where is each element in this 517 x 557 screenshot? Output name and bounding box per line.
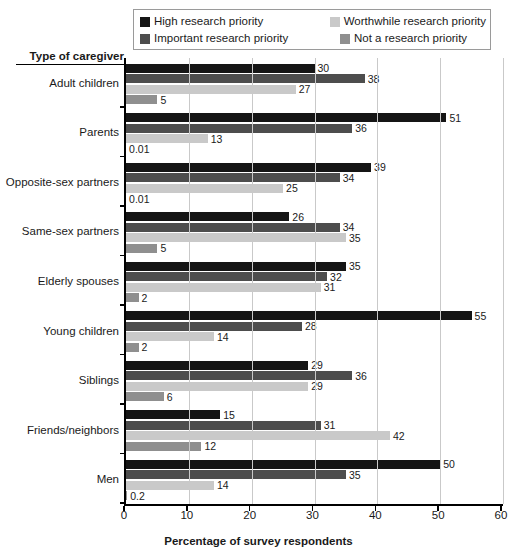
legend-row-1: High research priority Worthwhile resear… — [140, 13, 486, 30]
x-tick-label: 10 — [180, 509, 193, 521]
bar-value-label: 29 — [311, 360, 323, 371]
bar-value-label: 12 — [204, 441, 216, 452]
bar-value-label: 0.01 — [129, 144, 149, 155]
category-label: Opposite-sex partners — [1, 176, 119, 188]
x-axis-ticks: 0102030405060 — [124, 506, 501, 522]
legend-item-high: High research priority — [140, 16, 330, 28]
bar[interactable]: 30 — [126, 64, 315, 73]
legend-item-important: Important research priority — [140, 33, 340, 45]
bar-value-label: 34 — [343, 172, 355, 183]
bar-value-label: 2 — [142, 292, 148, 303]
bar-value-label: 26 — [292, 211, 304, 222]
bar[interactable]: 29 — [126, 361, 308, 370]
bar[interactable]: 26 — [126, 212, 289, 221]
bar[interactable]: 14 — [126, 481, 214, 490]
bar[interactable]: 31 — [126, 283, 321, 292]
bar[interactable]: 51 — [126, 113, 446, 122]
x-tick-label: 0 — [121, 509, 127, 521]
gridline — [503, 58, 504, 504]
bar-value-label: 35 — [349, 470, 361, 481]
legend-swatch-worthwhile-icon — [330, 17, 340, 27]
bar[interactable]: 50 — [126, 460, 440, 469]
legend-swatch-not-icon — [340, 34, 350, 44]
bar-value-label: 29 — [311, 381, 323, 392]
bar-value-label: 31 — [324, 420, 336, 431]
bar[interactable]: 34 — [126, 173, 340, 182]
bar[interactable]: 35 — [126, 262, 346, 271]
bar-value-label: 13 — [211, 133, 223, 144]
category-label: Parents — [1, 126, 119, 138]
legend-label-worthwhile: Worthwhile research priority — [344, 16, 486, 28]
bar[interactable]: 31 — [126, 421, 321, 430]
x-tick-label: 30 — [306, 509, 319, 521]
bar[interactable]: 36 — [126, 371, 352, 380]
category-label: Men — [1, 473, 119, 485]
bar[interactable]: 36 — [126, 124, 352, 133]
gridline — [377, 58, 378, 504]
x-axis-title: Percentage of survey respondents — [0, 535, 517, 547]
y-tick-mark — [120, 502, 126, 504]
bar[interactable]: 12 — [126, 442, 201, 451]
bar[interactable]: 14 — [126, 332, 214, 341]
bar[interactable]: 5 — [126, 95, 157, 104]
bar[interactable]: 2 — [126, 343, 139, 352]
legend-row-2: Important research priority Not a resear… — [140, 30, 486, 47]
legend-item-worthwhile: Worthwhile research priority — [330, 16, 486, 28]
bar-value-label: 42 — [393, 431, 405, 442]
bar-value-label: 35 — [349, 232, 361, 243]
category-label: Elderly spouses — [1, 275, 119, 287]
bar-value-label: 5 — [160, 94, 166, 105]
legend-label-not: Not a research priority — [354, 33, 467, 45]
bar[interactable]: 42 — [126, 431, 390, 440]
bar[interactable]: 34 — [126, 223, 340, 232]
category-label: Siblings — [1, 374, 119, 386]
bar-value-label: 31 — [324, 282, 336, 293]
bar[interactable]: 28 — [126, 322, 302, 331]
bar-value-label: 15 — [223, 410, 235, 421]
bar-value-label: 36 — [355, 123, 367, 134]
category-label: Friends/neighbors — [1, 424, 119, 436]
category-label: Young children — [1, 325, 119, 337]
bar[interactable]: 2 — [126, 293, 139, 302]
bar[interactable]: 39 — [126, 163, 371, 172]
bar[interactable]: 55 — [126, 311, 472, 320]
category-label-column: Adult childrenParentsOpposite-sex partne… — [0, 58, 119, 504]
bar[interactable]: 13 — [126, 134, 208, 143]
x-tick-label: 50 — [432, 509, 445, 521]
bar-value-label: 0.2 — [130, 491, 145, 502]
bar[interactable]: 27 — [126, 85, 296, 94]
x-tick-label: 40 — [369, 509, 382, 521]
bar[interactable]: 25 — [126, 184, 283, 193]
bar-value-label: 25 — [286, 183, 298, 194]
bar[interactable]: 32 — [126, 272, 327, 281]
bar-value-label: 5 — [160, 243, 166, 254]
bar[interactable]: 0.2 — [126, 491, 127, 500]
bar-value-label: 55 — [475, 311, 487, 322]
bar[interactable]: 6 — [126, 392, 164, 401]
bar-value-label: 14 — [217, 480, 229, 491]
legend-label-important: Important research priority — [154, 33, 288, 45]
bar[interactable]: 38 — [126, 74, 365, 83]
gridline — [252, 58, 253, 504]
x-tick-label: 20 — [243, 509, 256, 521]
bar-value-label: 0.01 — [129, 193, 149, 204]
bar-value-label: 6 — [167, 392, 173, 403]
bar-value-label: 35 — [349, 261, 361, 272]
bar-value-label: 36 — [355, 371, 367, 382]
bar-value-label: 2 — [142, 342, 148, 353]
legend-swatch-high-icon — [140, 17, 150, 27]
chart-plot-area: 30382755136130.013934250.012634355353231… — [124, 58, 503, 506]
bar[interactable]: 35 — [126, 470, 346, 479]
legend-swatch-important-icon — [140, 34, 150, 44]
gridline — [440, 58, 441, 504]
category-label: Adult children — [1, 77, 119, 89]
bar[interactable]: 5 — [126, 244, 157, 253]
bar-value-label: 39 — [374, 162, 386, 173]
bar[interactable]: 15 — [126, 410, 220, 419]
gridline — [315, 58, 316, 504]
bar-value-label: 51 — [449, 112, 461, 123]
bar-value-label: 14 — [217, 332, 229, 343]
category-label: Same-sex partners — [1, 225, 119, 237]
bar[interactable]: 29 — [126, 382, 308, 391]
bar[interactable]: 35 — [126, 233, 346, 242]
